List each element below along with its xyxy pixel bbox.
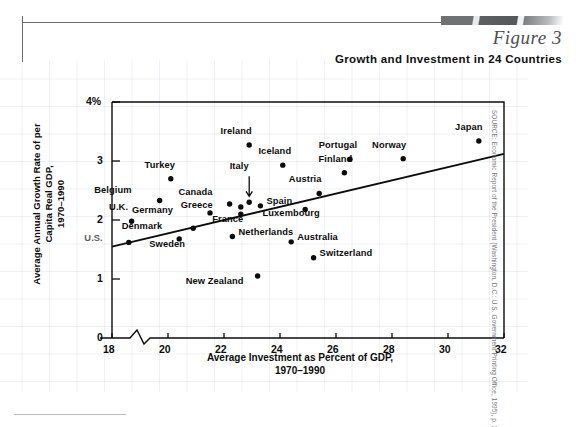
scatter-plot: Average Annual Growth Rate of per Capita… <box>0 0 576 427</box>
point-label: France <box>212 214 243 224</box>
y-axis-title: Average Annual Growth Rate of per Capita… <box>31 114 67 294</box>
y-tick-label: 3 <box>97 154 103 166</box>
data-point <box>247 200 252 205</box>
point-label: U.K. <box>109 202 128 212</box>
data-point <box>317 191 322 196</box>
data-point <box>280 162 285 167</box>
point-label: Finland <box>319 154 353 164</box>
y-tick-label: 1 <box>97 272 103 284</box>
x-tick-label: 18 <box>103 343 115 355</box>
y-tick-label: 0 <box>97 331 103 343</box>
point-label: U.S. <box>84 233 102 243</box>
point-label: Switzerland <box>320 248 373 258</box>
point-label: Ireland <box>221 126 252 136</box>
point-label: Germany <box>132 205 173 215</box>
x-tick-label: 20 <box>159 343 171 355</box>
source-note: SOURCE: Economic Report of the President… <box>491 110 498 380</box>
data-point <box>342 170 347 175</box>
x-tick-label: 26 <box>327 343 339 355</box>
point-label: Portugal <box>319 140 358 150</box>
point-label: Spain <box>266 196 292 206</box>
data-point <box>168 176 173 181</box>
data-point <box>238 204 243 209</box>
x-axis-title: Average Investment as Percent of GDP,197… <box>150 352 450 377</box>
data-point <box>289 239 294 244</box>
point-label: Turkey <box>145 160 175 170</box>
point-label: Canada <box>178 187 212 197</box>
point-label: Denmark <box>122 221 163 231</box>
x-tick-label: 22 <box>215 343 227 355</box>
data-point <box>191 226 196 231</box>
data-point <box>401 156 406 161</box>
y-tick-label: 4% <box>86 95 101 107</box>
x-tick-label: 24 <box>271 343 283 355</box>
point-label: New Zealand <box>186 276 244 286</box>
point-label: Australia <box>297 232 338 242</box>
data-point <box>230 234 235 239</box>
point-label: Sweden <box>149 239 185 249</box>
point-label: Greece <box>181 200 213 210</box>
point-label: Italy <box>230 161 249 171</box>
point-label: Luxembourg <box>263 208 320 218</box>
x-tick-label: 30 <box>439 343 451 355</box>
point-label: Austria <box>289 174 322 184</box>
data-point <box>126 240 131 245</box>
x-tick-label: 28 <box>383 343 395 355</box>
data-point <box>311 255 316 260</box>
data-point <box>227 201 232 206</box>
footer-rule <box>14 414 126 415</box>
data-point <box>476 138 481 143</box>
point-label: Belgium <box>94 185 131 195</box>
point-label: Netherlands <box>238 227 293 237</box>
point-label: Norway <box>372 140 406 150</box>
y-tick-label: 2 <box>97 213 103 225</box>
data-point <box>255 273 260 278</box>
point-label: Japan <box>455 122 482 132</box>
data-point <box>247 142 252 147</box>
data-point <box>157 198 162 203</box>
point-label: Iceland <box>258 146 291 156</box>
